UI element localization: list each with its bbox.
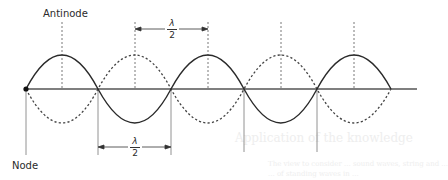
- antinode-label: Antinode: [43, 8, 88, 19]
- top-lambda-fraction: λ 2: [165, 18, 179, 41]
- node-label: Node: [12, 160, 38, 171]
- bottom-lambda-fraction: λ 2: [128, 136, 142, 159]
- denominator: 2: [128, 148, 142, 159]
- lambda-symbol: λ: [165, 18, 179, 29]
- denominator: 2: [165, 30, 179, 41]
- node-dot: [23, 86, 28, 91]
- lambda-symbol: λ: [128, 136, 142, 147]
